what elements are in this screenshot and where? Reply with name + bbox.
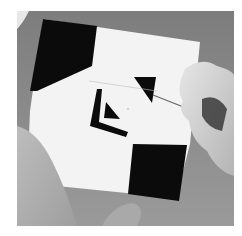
black-block-bottom-right xyxy=(128,144,187,201)
center-mark xyxy=(127,108,129,110)
tile-painting-scene xyxy=(17,11,234,226)
photo xyxy=(17,11,234,226)
